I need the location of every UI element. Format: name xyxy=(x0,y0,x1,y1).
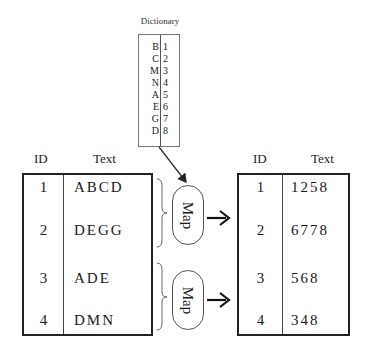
output-row-text: 6778 xyxy=(291,222,329,239)
dictionary-arrow-icon xyxy=(159,147,186,182)
output-header-id: ID xyxy=(253,151,267,167)
output-header-text: Text xyxy=(311,151,334,167)
right-arrow-icon xyxy=(207,293,229,307)
output-table: 1 1258 2 6778 3 568 4 348 xyxy=(237,173,350,336)
output-row-id: 1 xyxy=(239,179,282,196)
brace-icon xyxy=(157,263,167,330)
right-arrow-icon xyxy=(207,211,229,225)
output-row-text: 348 xyxy=(291,312,320,329)
output-row-text: 1258 xyxy=(291,179,329,196)
output-row-text: 568 xyxy=(291,270,320,287)
output-table-divider xyxy=(282,175,283,334)
output-row-id: 2 xyxy=(239,222,282,239)
brace-icon xyxy=(157,179,167,247)
output-row-id: 4 xyxy=(239,312,282,329)
output-row-id: 3 xyxy=(239,270,282,287)
